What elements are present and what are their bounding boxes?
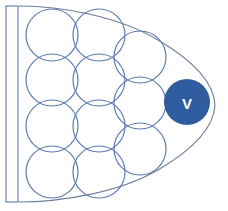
grid-circle [114, 77, 166, 129]
grid-circle [114, 123, 166, 175]
grid-circle [73, 54, 125, 106]
left-edge-bar [6, 6, 18, 202]
diagram-canvas: V [0, 0, 228, 211]
grid-circle [26, 54, 78, 106]
grid-circle [114, 31, 166, 83]
grid-circle [73, 146, 125, 198]
grid-circle [26, 146, 78, 198]
marker-label: V [182, 95, 192, 112]
grid-circle [73, 100, 125, 152]
grid-circle [26, 100, 78, 152]
grid-circle [26, 9, 78, 61]
diagram-svg: V [0, 0, 228, 211]
